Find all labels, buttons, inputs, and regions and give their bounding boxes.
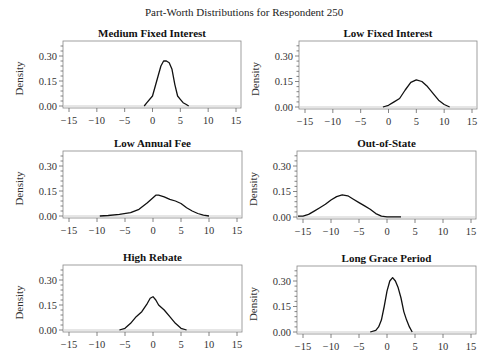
- x-tick-label: 0: [150, 339, 155, 350]
- y-tick-label: 0.00: [39, 211, 57, 222]
- plot-frame: [63, 151, 242, 218]
- x-tick-label: 10: [438, 226, 449, 237]
- plot-frame: [297, 151, 476, 219]
- x-tick-label: 10: [204, 339, 215, 350]
- y-axis-label: Density: [247, 171, 259, 206]
- x-tick-label: 15: [231, 115, 242, 126]
- panel-title: Out-of-State: [357, 137, 416, 149]
- x-tick-label: −5: [353, 226, 364, 237]
- panel-title: High Rebate: [123, 251, 182, 263]
- x-tick-label: 5: [178, 225, 183, 236]
- plot-frame: [63, 41, 241, 108]
- y-axis-label: Density: [247, 286, 259, 321]
- y-axis-label: Density: [13, 285, 25, 320]
- y-tick-label: 0.15: [273, 186, 291, 197]
- x-tick-label: −10: [89, 339, 105, 350]
- y-tick-label: 0.30: [275, 51, 293, 62]
- x-tick-label: 10: [203, 115, 214, 126]
- panel-out-of-state: Out-of-State0.000.150.30Density−15−10−50…: [247, 137, 476, 237]
- y-tick-label: 0.30: [39, 161, 57, 172]
- panel-long-grace-period: Long Grace Period0.000.150.30Density−15−…: [247, 252, 476, 352]
- x-tick-label: −10: [89, 115, 105, 126]
- x-tick-label: −15: [295, 226, 311, 237]
- y-tick-label: 0.15: [39, 186, 57, 197]
- y-axis-label: Density: [249, 61, 261, 96]
- x-tick-label: 5: [412, 341, 417, 352]
- x-tick-label: 15: [232, 339, 243, 350]
- y-axis-label: Density: [13, 61, 25, 96]
- plot-frame: [63, 265, 242, 332]
- x-tick-label: 0: [384, 341, 389, 352]
- panel-low-fixed-interest: Low Fixed Interest0.000.150.30Density−15…: [249, 27, 477, 127]
- panel-medium-fixed-interest: Medium Fixed Interest0.000.150.30Density…: [13, 27, 241, 126]
- x-tick-label: −5: [119, 339, 130, 350]
- x-tick-label: 15: [466, 341, 477, 352]
- panel-title: Low Annual Fee: [114, 137, 191, 149]
- y-tick-label: 0.15: [275, 76, 293, 87]
- x-tick-label: −10: [325, 116, 341, 127]
- x-tick-label: 15: [467, 116, 478, 127]
- x-tick-label: −10: [323, 341, 339, 352]
- y-tick-label: 0.00: [39, 101, 57, 112]
- panel-low-annual-fee: Low Annual Fee0.000.150.30Density−15−10−…: [13, 137, 242, 236]
- y-tick-label: 0.30: [273, 161, 291, 172]
- plot-frame: [299, 41, 477, 109]
- chart-canvas: Medium Fixed Interest0.000.150.30Density…: [0, 0, 499, 361]
- x-tick-label: 10: [439, 116, 450, 127]
- x-tick-label: 5: [178, 339, 183, 350]
- x-tick-label: 15: [466, 226, 477, 237]
- y-tick-label: 0.15: [39, 76, 57, 87]
- y-tick-label: 0.15: [273, 301, 291, 312]
- x-tick-label: 5: [412, 226, 417, 237]
- x-tick-label: 10: [204, 225, 215, 236]
- y-tick-label: 0.00: [273, 212, 291, 223]
- x-tick-label: −10: [323, 226, 339, 237]
- x-tick-label: 15: [232, 225, 243, 236]
- x-tick-label: −5: [355, 116, 366, 127]
- x-tick-label: −15: [297, 116, 313, 127]
- x-tick-label: −15: [61, 339, 77, 350]
- panel-high-rebate: High Rebate0.000.150.30Density−15−10−505…: [13, 251, 242, 350]
- plot-frame: [297, 266, 476, 334]
- x-tick-label: 5: [414, 116, 419, 127]
- panel-title: Low Fixed Interest: [343, 27, 432, 39]
- x-tick-label: −15: [295, 341, 311, 352]
- y-tick-label: 0.30: [39, 51, 57, 62]
- y-tick-label: 0.00: [273, 327, 291, 338]
- x-tick-label: −5: [119, 115, 130, 126]
- y-tick-label: 0.15: [39, 300, 57, 311]
- y-tick-label: 0.30: [273, 276, 291, 287]
- y-axis-label: Density: [13, 171, 25, 206]
- x-tick-label: −5: [353, 341, 364, 352]
- x-tick-label: 0: [386, 116, 391, 127]
- y-tick-label: 0.00: [275, 102, 293, 113]
- x-tick-label: 5: [178, 115, 183, 126]
- x-tick-label: 0: [384, 226, 389, 237]
- x-tick-label: 0: [150, 225, 155, 236]
- y-tick-label: 0.30: [39, 275, 57, 286]
- x-tick-label: 0: [150, 115, 155, 126]
- y-tick-label: 0.00: [39, 325, 57, 336]
- x-tick-label: −5: [119, 225, 130, 236]
- x-tick-label: −15: [61, 115, 77, 126]
- x-tick-label: −10: [89, 225, 105, 236]
- x-tick-label: −15: [61, 225, 77, 236]
- panel-title: Medium Fixed Interest: [98, 27, 206, 39]
- x-tick-label: 10: [438, 341, 449, 352]
- panel-title: Long Grace Period: [342, 252, 432, 264]
